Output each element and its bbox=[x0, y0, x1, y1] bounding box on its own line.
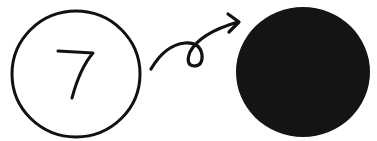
right-node bbox=[236, 7, 370, 137]
diagram-canvas: 7 bbox=[0, 0, 377, 141]
left-node: 7 bbox=[12, 11, 140, 137]
looped-arrow bbox=[151, 14, 239, 69]
